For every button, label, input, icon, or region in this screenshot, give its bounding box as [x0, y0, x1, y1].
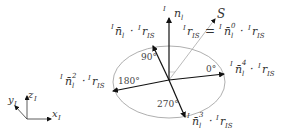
angle-label-270: 270° [157, 99, 179, 109]
arrow-0-deg [169, 74, 224, 80]
svg-text:I: I [87, 74, 91, 82]
y-axis-arrow [15, 106, 27, 119]
angle-label-180: 180° [118, 76, 140, 86]
svg-text:I: I [137, 24, 141, 32]
right-expression: I n̄ 4 l · I r IS [229, 59, 275, 78]
svg-text:I: I [59, 73, 63, 81]
x-axis-label: x I [52, 108, 61, 122]
normal-label: I n l [162, 5, 183, 22]
svg-text:l: l [231, 32, 233, 40]
top-left-expression: I n̄ l · I r IS [110, 23, 155, 40]
svg-text:I: I [110, 23, 114, 31]
svg-text:l: l [72, 82, 74, 90]
svg-text:·: · [209, 115, 213, 128]
svg-text:I: I [57, 114, 61, 122]
svg-text:=: = [205, 24, 215, 38]
svg-text:l: l [181, 14, 183, 22]
svg-text:I: I [13, 100, 17, 108]
svg-text:0: 0 [231, 22, 236, 30]
svg-text:l: l [199, 122, 201, 130]
coordinate-frame: x I z I y I [7, 89, 61, 122]
y-axis-label: y I [7, 94, 17, 108]
angle-label-0: 0° [206, 64, 216, 74]
angle-label-90: 90° [141, 52, 157, 62]
svg-text:IS: IS [96, 82, 105, 90]
sun-label: S [217, 7, 225, 21]
svg-text:I: I [218, 23, 222, 31]
svg-text:l: l [242, 70, 244, 78]
bottom-expression: I n̄ 3 l · I r IS [186, 111, 233, 130]
svg-text:I: I [182, 24, 186, 32]
left-expression: I n̄ 2 l · I r IS [59, 72, 105, 90]
svg-text:·: · [130, 25, 134, 38]
svg-text:4: 4 [241, 59, 246, 67]
svg-text:I: I [186, 112, 190, 120]
svg-text:l: l [122, 32, 124, 40]
svg-text:I: I [215, 114, 219, 122]
svg-text:·: · [240, 25, 244, 38]
z-axis-label: z I [27, 89, 37, 103]
svg-text:·: · [250, 63, 254, 76]
svg-text:3: 3 [199, 111, 204, 119]
svg-text:IS: IS [146, 32, 155, 40]
svg-text:·: · [82, 75, 86, 88]
svg-text:I: I [162, 5, 166, 13]
svg-text:I: I [247, 24, 251, 32]
svg-text:2: 2 [71, 72, 77, 80]
svg-text:I: I [229, 60, 233, 68]
svg-text:y: y [7, 94, 14, 105]
svg-text:IS: IS [191, 32, 200, 40]
svg-text:I: I [257, 62, 261, 70]
svg-text:IS: IS [224, 122, 233, 130]
svg-text:I: I [33, 95, 37, 103]
top-right-expression: I n̄ 0 l · I r IS [218, 22, 265, 40]
svg-text:IS: IS [266, 70, 275, 78]
top-mid-expression: I r IS = [182, 24, 215, 40]
projection-diagram: 0° 90° 180° 270° I n l S I n̄ l · I r IS… [0, 0, 288, 137]
svg-text:IS: IS [256, 32, 265, 40]
svg-text:z: z [27, 89, 34, 100]
